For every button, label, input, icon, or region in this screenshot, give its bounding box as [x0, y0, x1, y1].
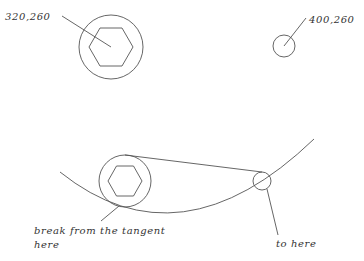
to-here-leader-line — [267, 189, 278, 235]
top-right-coord-label: 400,260 — [308, 14, 355, 25]
top-left-coord-label: 320,260 — [5, 11, 51, 22]
break-label-line1: break from the tangent — [34, 225, 166, 236]
break-label-line2: here — [34, 239, 59, 250]
drawing-canvas: 320,260 400,260 break from the tangent h… — [0, 0, 364, 261]
bottom-arc — [60, 139, 314, 213]
bottom-hexagon — [108, 166, 142, 196]
bottom-large-circle — [99, 155, 151, 207]
tangent-line — [125, 155, 262, 172]
top-right-leader-line — [284, 18, 306, 46]
to-here-label: to here — [276, 238, 316, 249]
top-left-leader-line — [62, 16, 111, 47]
break-leader-line — [101, 206, 119, 221]
